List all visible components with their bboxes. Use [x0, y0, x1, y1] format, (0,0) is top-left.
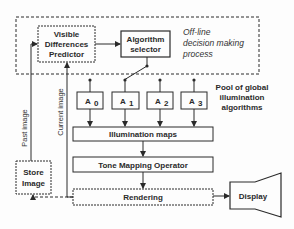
a3-label: A	[189, 97, 195, 106]
past-image-edge	[31, 44, 37, 161]
a1-label: A	[120, 97, 126, 106]
illumination-maps-node: Illumination maps	[73, 127, 213, 141]
past-image-label: Past image	[20, 109, 29, 147]
selector-label-2: selector	[130, 45, 161, 54]
a2-label: A	[155, 97, 161, 106]
tone-mapping-node: Tone Mapping Operator	[73, 157, 213, 172]
illumination-maps-label: Illumination maps	[109, 130, 178, 139]
pool-label-2: illumination	[220, 93, 265, 102]
selector-switch	[124, 57, 149, 80]
a0-label: A	[85, 97, 91, 106]
algorithm-a2: A 2	[147, 78, 173, 126]
store-image-node: Store Image	[16, 161, 51, 194]
tone-mapping-label: Tone Mapping Operator	[98, 161, 188, 170]
display-label: Display	[239, 192, 268, 201]
current-image-label: Current image	[56, 88, 65, 136]
algorithm-a0: A 0	[77, 78, 103, 126]
offline-label-2: decision making	[183, 38, 244, 48]
a2-sub: 2	[164, 99, 169, 108]
pool-label-3: algorithms	[222, 103, 263, 112]
algorithm-a1: A 1	[112, 78, 139, 126]
vdp-label-3: Predictor	[49, 50, 84, 59]
a0-sub: 0	[94, 99, 99, 108]
rendering-node: Rendering	[73, 189, 213, 205]
vdp-label-2: Differences	[45, 40, 89, 49]
store-image-label-2: Image	[22, 179, 46, 188]
a1-sub: 1	[129, 99, 134, 108]
algorithm-a3: A 3	[181, 78, 207, 126]
pool-label-1: Pool of global	[216, 83, 269, 92]
vdp-label-1: Visible	[54, 30, 80, 39]
a3-sub: 3	[198, 99, 203, 108]
current-image-edge	[67, 63, 73, 197]
selector-label-1: Algorithm	[127, 35, 165, 44]
display-node: Display	[230, 173, 281, 217]
vdp-node: Visible Differences Predictor	[38, 26, 95, 62]
offline-label-1: Off-line	[183, 27, 211, 37]
store-image-label-1: Store	[23, 168, 44, 177]
diagram-canvas: Off-line decision making process Visible…	[0, 0, 294, 229]
selector-node: Algorithm selector	[121, 31, 170, 57]
offline-label-3: process	[182, 49, 214, 59]
rendering-label: Rendering	[123, 193, 163, 202]
